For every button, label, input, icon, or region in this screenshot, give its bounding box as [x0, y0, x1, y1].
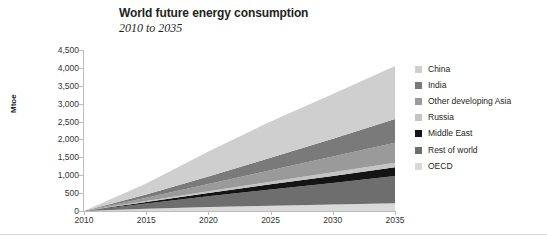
area-series-svg: [84, 50, 395, 211]
x-axis-line: [83, 211, 396, 212]
chart-card: World future energy consumption 2010 to …: [0, 0, 547, 243]
legend-swatch-icon: [415, 163, 422, 170]
chart-subtitle: 2010 to 2035: [119, 21, 308, 36]
y-tick-label: 4,000: [5, 64, 79, 72]
y-tick-label: 1,000: [5, 171, 79, 179]
y-tick-label: 4,500: [5, 46, 79, 54]
x-tick-mark: [146, 211, 147, 215]
x-tick-mark: [84, 211, 85, 215]
title-block: World future energy consumption 2010 to …: [119, 6, 308, 36]
y-tick-label: 0: [5, 207, 79, 215]
legend-item-india[interactable]: India: [415, 77, 511, 93]
legend-item-oecd[interactable]: OECD: [415, 158, 511, 174]
y-tick-label: 500: [5, 189, 79, 197]
legend-swatch-icon: [415, 82, 422, 89]
y-tick-label: 3,000: [5, 100, 79, 108]
x-tick-label: 2030: [323, 215, 342, 225]
legend-item-other-developing-asia[interactable]: Other developing Asia: [415, 93, 511, 109]
footer-divider: [0, 234, 547, 235]
legend-item-label: Middle East: [428, 129, 472, 138]
y-tick-label: 1,500: [5, 153, 79, 161]
y-axis-ticks: 05001,0001,5002,0002,5003,0003,5004,0004…: [0, 0, 79, 243]
x-tick-mark: [208, 211, 209, 215]
legend-item-label: Rest of world: [428, 146, 478, 155]
legend-item-label: China: [428, 65, 450, 74]
x-tick-label: 2020: [199, 215, 218, 225]
x-tick-mark: [271, 211, 272, 215]
page-title: World future energy consumption: [119, 6, 308, 20]
x-tick-label: 2015: [137, 215, 156, 225]
y-tick-label: 3,500: [5, 82, 79, 90]
legend-swatch-icon: [415, 147, 422, 154]
legend-item-label: Other developing Asia: [428, 97, 511, 106]
x-tick-label: 2010: [75, 215, 94, 225]
x-tick-mark: [395, 211, 396, 215]
legend-swatch-icon: [415, 130, 422, 137]
legend-item-middle-east[interactable]: Middle East: [415, 126, 511, 142]
legend-item-label: OECD: [428, 162, 453, 171]
x-tick-label: 2035: [386, 215, 405, 225]
x-tick-label: 2025: [261, 215, 280, 225]
legend-item-rest-of-world[interactable]: Rest of world: [415, 142, 511, 158]
y-tick-label: 2,500: [5, 118, 79, 126]
legend-item-label: India: [428, 81, 446, 90]
legend-item-china[interactable]: China: [415, 61, 511, 77]
plot-wrapper: [84, 50, 395, 211]
x-tick-mark: [333, 211, 334, 215]
y-tick-label: 2,000: [5, 135, 79, 143]
chart-legend: ChinaIndiaOther developing AsiaRussiaMid…: [415, 61, 511, 174]
legend-item-label: Russia: [428, 113, 454, 122]
stacked-area-plot: [84, 50, 395, 211]
legend-swatch-icon: [415, 66, 422, 73]
legend-swatch-icon: [415, 98, 422, 105]
legend-item-russia[interactable]: Russia: [415, 110, 511, 126]
legend-swatch-icon: [415, 114, 422, 121]
